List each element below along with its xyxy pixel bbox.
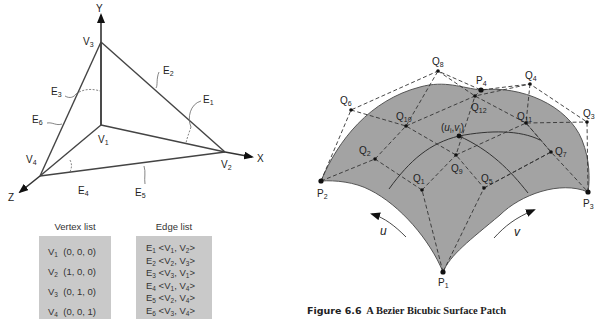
point-q9 (454, 153, 458, 157)
edge-list: E1 <V1, V2> E2 <V2, V3> E3 <V3, V1> E4 <… (136, 236, 212, 319)
u-direction-arrow (372, 214, 406, 237)
point-q10 (404, 124, 408, 128)
edge-label-e1: E1 (203, 94, 214, 106)
vertex-label-v2: V2 (221, 159, 232, 171)
edge-list-row: E3 <V3, V1> (136, 267, 212, 280)
vertex-list-row: V3 (0, 1, 0) (39, 282, 111, 302)
edge-e5 (40, 152, 225, 176)
label-p2: P2 (317, 188, 328, 200)
label-q8: Q8 (432, 56, 444, 68)
vertex-label-v1: V1 (98, 134, 109, 146)
leader-e1-dash (186, 127, 191, 143)
leader-e1 (189, 101, 201, 127)
edge-list-row: E2 <V2, V3> (136, 255, 212, 268)
edge-list-row: E6 <V3, V4> (136, 305, 212, 318)
edge-list-row: E4 <V1, V4> (136, 280, 212, 293)
leader-e2 (156, 72, 159, 88)
point-p4 (478, 87, 483, 92)
label-p4: P4 (476, 75, 487, 87)
edge-label-e3: E3 (51, 86, 62, 98)
edge-list-title: Edge list (136, 221, 212, 232)
leader-e3 (65, 94, 76, 97)
x-axis-label: X (257, 153, 264, 164)
edge-label-e4: E4 (78, 185, 89, 197)
point-uivi (457, 134, 462, 139)
x-axis (225, 152, 252, 157)
label-uivi: (ui,vi) (441, 122, 464, 134)
z-axis (20, 176, 40, 192)
label-q4: Q4 (525, 70, 537, 82)
point-p3 (585, 189, 590, 194)
point-q7 (549, 150, 553, 154)
edge-e1 (101, 125, 225, 152)
edge-list-row: E5 <V2, V4> (136, 292, 212, 305)
surface-patch (321, 84, 589, 272)
z-axis-label: Z (8, 192, 14, 203)
edge-label-e5: E5 (135, 187, 146, 199)
vertex-list-row: V1 (0, 0, 0) (39, 242, 111, 262)
vertex-list: V1 (0, 0, 0) V2 (1, 0, 0) V3 (0, 1, 0) V… (39, 236, 111, 319)
edge-e4 (40, 125, 101, 176)
edge-label-e6: E6 (32, 114, 43, 126)
figure-caption: Figure 6.6 A Bezier Bicubic Surface Patc… (307, 305, 506, 316)
edge-e6 (40, 42, 101, 176)
label-q3: Q3 (583, 108, 595, 120)
leader-e4 (70, 160, 72, 172)
point-q3 (585, 120, 589, 124)
label-p3: P3 (583, 198, 594, 210)
vertex-list-row: V4 (0, 0, 1) (39, 302, 111, 322)
bezier-patch-diagram: P1 P2 P3 P4 Q1 Q2 Q3 Q4 Q5 Q6 Q7 Q8 Q9 Q… (317, 56, 595, 289)
label-p1: P1 (438, 277, 449, 289)
tetrahedron-diagram: Y X Z V1 V2 V3 V4 E1 E2 E3 E4 E5 E6 (8, 3, 264, 203)
edge-label-e2: E2 (163, 65, 174, 77)
vertex-label-v3: V3 (83, 36, 94, 48)
leader-e6 (47, 123, 62, 125)
point-q4 (528, 82, 532, 86)
point-q5 (482, 186, 486, 190)
point-q8 (436, 69, 440, 73)
point-q12 (473, 94, 477, 98)
vertex-label-v4: V4 (26, 154, 37, 166)
point-q6 (349, 108, 353, 112)
vertex-list-row: V2 (1, 0, 0) (39, 262, 111, 282)
label-q6: Q6 (340, 95, 352, 107)
u-label: u (380, 224, 387, 238)
edge-list-row: E1 <V1, V2> (136, 242, 212, 255)
vertex-list-title: Vertex list (39, 221, 111, 232)
point-q2 (373, 157, 377, 161)
v-label: v (514, 225, 521, 239)
figure-title: A Bezier Bicubic Surface Patch (366, 305, 506, 316)
point-q1 (420, 188, 424, 192)
figure-number: Figure 6.6 (307, 305, 362, 316)
point-p2 (318, 178, 323, 183)
point-p1 (440, 269, 445, 274)
leader-e5 (144, 166, 145, 184)
y-axis-label: Y (96, 3, 103, 14)
